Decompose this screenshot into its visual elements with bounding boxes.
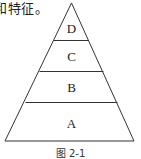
- level-label-b: B: [67, 80, 76, 95]
- level-label-c: C: [67, 49, 76, 64]
- pyramid-diagram: D C B A: [0, 0, 141, 159]
- level-label-a: A: [67, 116, 77, 131]
- level-label-d: D: [67, 21, 76, 36]
- figure-caption: 图 2-1: [0, 145, 141, 159]
